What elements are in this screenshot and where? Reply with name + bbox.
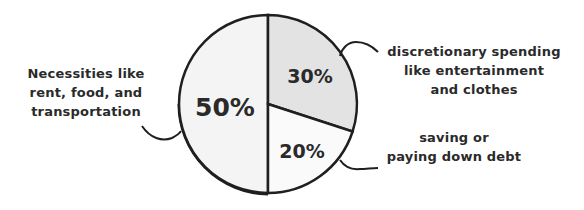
label-line: transportation [26,102,146,121]
pct-saving: 20% [279,140,324,162]
label-line: like entertainment [384,61,564,80]
callout-saving [340,160,378,169]
label-line: and clothes [384,80,564,99]
label-discretionary: discretionary spending like entertainmen… [384,42,564,99]
label-line: discretionary spending [384,42,564,61]
label-saving: saving or paying down debt [384,128,524,166]
label-necessities: Necessities like rent, food, and transpo… [26,64,146,121]
pct-necessities: 50% [195,93,255,122]
label-line: paying down debt [384,147,524,166]
label-line: rent, food, and [26,83,146,102]
callout-necessities [142,126,181,140]
label-line: Necessities like [26,64,146,83]
pct-discretionary: 30% [287,65,332,87]
callout-discretionary [340,42,378,56]
label-line: saving or [384,128,524,147]
